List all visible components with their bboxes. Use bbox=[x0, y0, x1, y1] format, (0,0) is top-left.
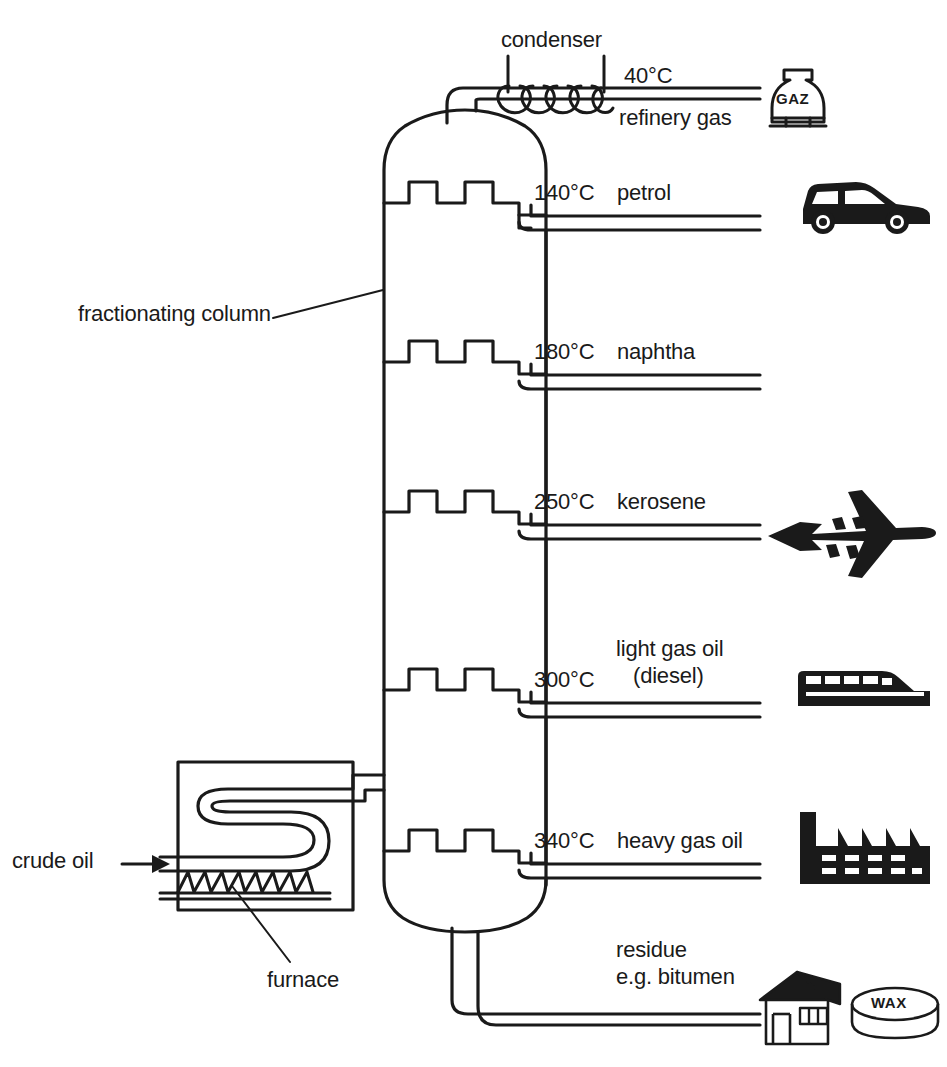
temperature-label-40: 40°C bbox=[624, 64, 672, 89]
fraction-label-naphtha: naphtha bbox=[617, 340, 695, 365]
distillation-diagram: condenser 40°C refinery gas 140°C petrol… bbox=[0, 0, 947, 1067]
diagram-artwork bbox=[0, 0, 947, 1067]
temperature-label-300: 300°C bbox=[534, 668, 594, 693]
condenser-label: condenser bbox=[501, 28, 602, 53]
crude-oil-label: crude oil bbox=[12, 849, 93, 874]
train-icon bbox=[798, 671, 930, 706]
tray-250 bbox=[384, 491, 546, 524]
fraction-label-kerosene: kerosene bbox=[617, 490, 706, 515]
outlet-pipe-diesel bbox=[519, 692, 760, 717]
outlet-pipe-petrol bbox=[519, 205, 760, 230]
temperature-label-250: 250°C bbox=[534, 490, 594, 515]
fraction-label-diesel: (diesel) bbox=[633, 664, 704, 689]
gas-bottle-text: GAZ bbox=[776, 91, 809, 108]
fraction-label-residue: residue bbox=[616, 938, 687, 963]
column-body bbox=[384, 110, 546, 932]
furnace-label: furnace bbox=[267, 968, 339, 993]
temperature-label-140: 140°C bbox=[534, 181, 594, 206]
fraction-label-bitumen: e.g. bitumen bbox=[616, 965, 735, 990]
condenser-coil-icon bbox=[498, 56, 613, 113]
outlet-pipe-kerosene bbox=[519, 514, 760, 539]
fraction-label-petrol: petrol bbox=[617, 181, 671, 206]
temperature-label-180: 180°C bbox=[534, 340, 594, 365]
outlet-pipe-heavy-gas-oil bbox=[519, 853, 760, 878]
fractionating-column-label: fractionating column bbox=[78, 302, 271, 327]
outlet-pipe-naphtha bbox=[519, 364, 760, 389]
factory-icon bbox=[800, 812, 930, 884]
tray-300 bbox=[384, 669, 546, 702]
wax-tin-text: WAX bbox=[871, 995, 907, 1012]
airplane-icon bbox=[768, 490, 936, 578]
fraction-label-refinery-gas: refinery gas bbox=[619, 106, 732, 131]
callout-leader-lines bbox=[232, 290, 383, 962]
fraction-label-light-gas-oil: light gas oil bbox=[616, 637, 723, 662]
temperature-label-340: 340°C bbox=[534, 829, 594, 854]
car-icon bbox=[803, 182, 930, 234]
furnace-burner-icon bbox=[160, 872, 330, 899]
tray-180 bbox=[384, 341, 546, 374]
house-icon bbox=[760, 972, 840, 1044]
furnace-coil-pipe bbox=[160, 775, 384, 871]
tray-140 bbox=[384, 182, 546, 228]
tray-340 bbox=[384, 830, 546, 863]
fraction-label-heavy-gas-oil: heavy gas oil bbox=[617, 829, 743, 854]
